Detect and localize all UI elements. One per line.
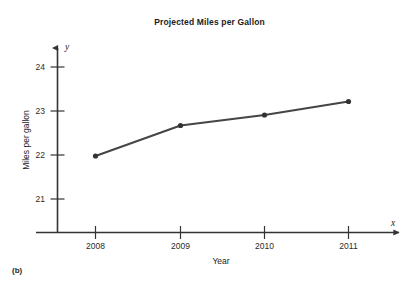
figure-panel: Projected Miles per Gallon 24 23 22 21 bbox=[0, 0, 419, 294]
x-axis-variable-label: x bbox=[390, 218, 396, 228]
y-axis-variable-label: y bbox=[64, 42, 70, 52]
line-chart-plot: 24 23 22 21 2008 2009 2010 2011 y x bbox=[0, 0, 419, 294]
x-tick-label: 2008 bbox=[86, 241, 105, 251]
x-tick-label: 2010 bbox=[255, 241, 274, 251]
x-tick-label: 2011 bbox=[339, 241, 358, 251]
y-axis-title: Miles per gallon bbox=[21, 110, 31, 170]
x-tick-label: 2009 bbox=[171, 241, 190, 251]
data-point bbox=[262, 112, 267, 117]
figure-panel-label: (b) bbox=[12, 266, 22, 275]
y-tick-label: 24 bbox=[36, 62, 46, 72]
data-line-series bbox=[96, 102, 349, 157]
y-tick-label: 22 bbox=[36, 150, 46, 160]
data-point bbox=[346, 99, 351, 104]
x-axis-title: Year bbox=[212, 256, 229, 266]
data-point bbox=[93, 153, 98, 158]
y-tick-label: 21 bbox=[36, 194, 46, 204]
y-tick-label: 23 bbox=[36, 106, 46, 116]
data-point bbox=[178, 123, 183, 128]
